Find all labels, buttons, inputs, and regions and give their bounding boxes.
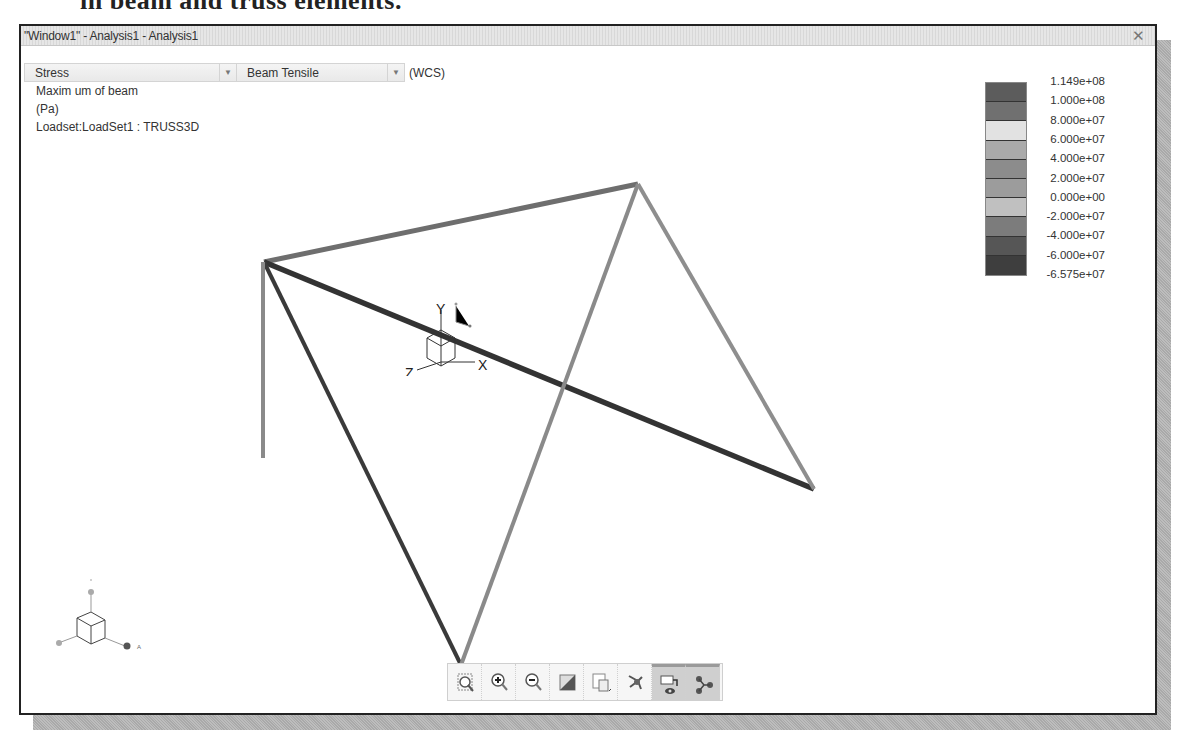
legend-swatch bbox=[986, 237, 1026, 256]
legend-swatch bbox=[986, 198, 1026, 217]
legend-value: 2.000e+07 bbox=[1025, 172, 1105, 184]
legend-swatch bbox=[986, 179, 1026, 198]
zoom-window-icon bbox=[454, 671, 476, 693]
book-caption-text: in beam and truss elements. bbox=[80, 0, 402, 16]
legend-swatch bbox=[986, 217, 1026, 236]
info-units: (Pa) bbox=[36, 102, 59, 116]
legend-value: -4.000e+07 bbox=[1025, 229, 1105, 241]
zoom-out-icon bbox=[522, 671, 544, 693]
analysis-window: "Window1" - Analysis1 - Analysis1 ✕ Y X … bbox=[19, 24, 1157, 715]
component-value: Beam Tensile bbox=[247, 66, 319, 80]
legend-swatch bbox=[986, 141, 1026, 160]
result-type-dropdown[interactable]: Stress ▼ bbox=[24, 63, 237, 82]
spin-center-icon bbox=[624, 671, 646, 693]
component-dropdown[interactable]: Beam Tensile ▼ bbox=[236, 63, 405, 82]
model-axis-triad-icon: Y X Z bbox=[401, 296, 501, 376]
legend-value: -6.575e+07 bbox=[1025, 268, 1105, 280]
saved-views-icon bbox=[590, 671, 612, 693]
view-toolbar bbox=[447, 663, 723, 701]
zoom-out-button[interactable] bbox=[516, 664, 550, 700]
legend-swatch bbox=[986, 256, 1026, 275]
chevron-down-icon[interactable]: ▼ bbox=[387, 64, 404, 81]
zoom-in-button[interactable] bbox=[482, 664, 516, 700]
legend-value: 6.000e+07 bbox=[1025, 133, 1105, 145]
chevron-down-icon[interactable]: ▼ bbox=[219, 64, 236, 81]
datum-display-icon bbox=[692, 673, 714, 695]
shading-button[interactable] bbox=[550, 664, 584, 700]
legend-value: 1.000e+08 bbox=[1025, 94, 1105, 106]
legend-value: 8.000e+07 bbox=[1025, 114, 1105, 126]
title-bar[interactable]: "Window1" - Analysis1 - Analysis1 ✕ bbox=[21, 26, 1155, 46]
truss-member-1[interactable] bbox=[264, 184, 638, 262]
close-icon[interactable]: ✕ bbox=[1132, 27, 1145, 44]
legend-swatch bbox=[986, 160, 1026, 179]
zoom-window-button[interactable] bbox=[448, 664, 482, 700]
window-title: "Window1" - Analysis1 - Analysis1 bbox=[24, 29, 198, 43]
legend-swatch bbox=[986, 102, 1026, 121]
legend-swatch bbox=[986, 83, 1026, 102]
legend-value: -6.000e+07 bbox=[1025, 249, 1105, 261]
view-orientation-triad-icon: A bbox=[41, 576, 161, 686]
legend-value: 1.149e+08 bbox=[1025, 75, 1105, 87]
svg-text:A: A bbox=[137, 644, 141, 650]
spin-center-button[interactable] bbox=[618, 664, 652, 700]
legend-value: 4.000e+07 bbox=[1025, 152, 1105, 164]
svg-text:Y: Y bbox=[436, 301, 446, 317]
coord-system-label: (WCS) bbox=[409, 66, 445, 80]
shading-icon bbox=[556, 671, 578, 693]
info-loadset: Loadset:LoadSet1 : TRUSS3D bbox=[36, 120, 199, 134]
saved-views-button[interactable] bbox=[584, 664, 618, 700]
view-display-icon bbox=[658, 673, 680, 695]
truss-member-4[interactable] bbox=[461, 184, 638, 665]
legend-swatch bbox=[986, 121, 1026, 140]
truss-member-5[interactable] bbox=[638, 184, 814, 489]
info-quantity: Maxim um of beam bbox=[36, 84, 138, 98]
zoom-in-icon bbox=[488, 671, 510, 693]
result-type-value: Stress bbox=[35, 66, 69, 80]
svg-text:X: X bbox=[478, 357, 488, 373]
legend-value: 0.000e+00 bbox=[1025, 191, 1105, 203]
legend-value: -2.000e+07 bbox=[1025, 210, 1105, 222]
datum-display-button[interactable] bbox=[686, 664, 720, 700]
legend-color-bar bbox=[985, 82, 1027, 276]
svg-text:Z: Z bbox=[405, 365, 414, 376]
view-display-button[interactable] bbox=[652, 664, 686, 700]
